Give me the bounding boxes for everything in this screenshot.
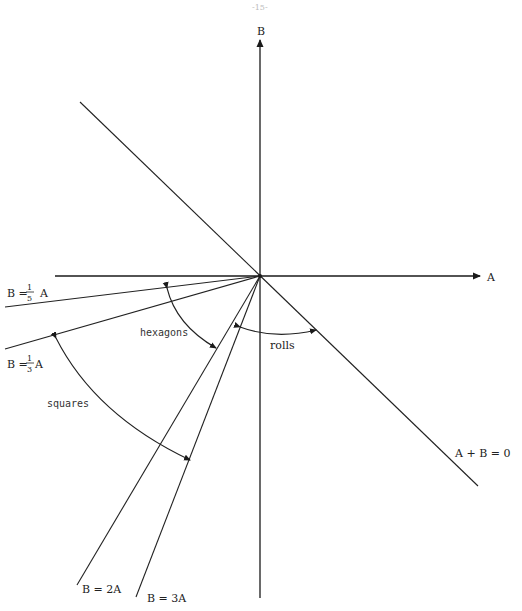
label-b-2a: B = 2A bbox=[82, 583, 122, 596]
b-axis-label: B bbox=[257, 25, 265, 38]
svg-text:A: A bbox=[39, 287, 49, 300]
svg-text:5: 5 bbox=[27, 294, 32, 303]
svg-text:1: 1 bbox=[27, 354, 32, 363]
rolls-arc-arrow bbox=[240, 327, 316, 334]
svg-text:3: 3 bbox=[27, 365, 32, 374]
label-b-fifth-a: B = 1 5 A bbox=[7, 283, 49, 303]
label-hexagons: hexagons bbox=[140, 327, 188, 338]
line-a-plus-b-zero bbox=[80, 102, 478, 486]
svg-text:B =: B = bbox=[7, 358, 28, 371]
hexagons-arc-arrow bbox=[167, 288, 216, 348]
a-axis-label: A bbox=[486, 271, 496, 284]
svg-text:1: 1 bbox=[27, 283, 32, 292]
label-b-third-a: B = 1 3 A bbox=[7, 354, 44, 374]
label-a-plus-b-zero: A + B = 0 bbox=[454, 447, 510, 460]
label-squares: squares bbox=[47, 398, 89, 409]
label-b-3a: B = 3A bbox=[147, 592, 187, 605]
origin-dot bbox=[258, 274, 262, 278]
svg-text:A: A bbox=[34, 358, 44, 371]
svg-text:B =: B = bbox=[7, 287, 28, 300]
page-number: -15- bbox=[252, 3, 268, 12]
phase-diagram: -15- B A A + B = 0 B = 1 5 A B = 1 3 A B… bbox=[0, 0, 522, 611]
label-rolls: rolls bbox=[270, 339, 295, 352]
line-b-3a bbox=[136, 276, 260, 597]
line-b-2a bbox=[77, 276, 260, 585]
